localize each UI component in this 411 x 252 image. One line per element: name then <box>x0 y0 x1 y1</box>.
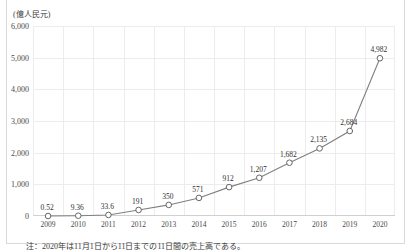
x-axis-tick-label: 2010 <box>71 220 86 229</box>
x-axis-tick-label: 2011 <box>101 220 116 229</box>
y-axis-tick-label: 4,000 <box>11 85 29 94</box>
x-axis-tick-label: 2018 <box>312 220 327 229</box>
x-axis-tick-label: 2015 <box>222 220 237 229</box>
data-point-label: 191 <box>132 197 143 206</box>
data-point-marker <box>196 195 202 201</box>
data-point-marker <box>287 160 293 166</box>
data-point-label: 571 <box>192 185 203 194</box>
chart-figure: (億人民元) 01,0002,0003,0004,0005,0006,000 2… <box>0 0 411 252</box>
data-point-marker <box>45 213 51 219</box>
data-point-label: 350 <box>162 192 173 201</box>
data-point-label: 9.36 <box>71 203 84 212</box>
chart-note: 注：2020年は11月1日から11日までの11日間の売上高である。 <box>26 240 245 251</box>
data-point-label: 2,135 <box>310 135 327 144</box>
data-point-label: 4,982 <box>370 45 387 54</box>
x-axis-tick-label: 2016 <box>252 220 267 229</box>
data-point-marker <box>377 55 383 61</box>
y-axis-tick-label: 6,000 <box>11 22 29 31</box>
data-point-marker <box>166 202 172 208</box>
x-axis-tick-label: 2014 <box>191 220 206 229</box>
data-point-marker <box>317 146 323 152</box>
x-axis-tick-label: 2009 <box>41 220 56 229</box>
data-point-label: 1,682 <box>280 150 297 159</box>
data-point-marker <box>226 184 232 190</box>
x-axis-tick-label: 2019 <box>342 220 357 229</box>
data-point-label: 0.52 <box>41 203 54 212</box>
data-point-label: 912 <box>222 174 233 183</box>
data-point-label: 1,207 <box>250 165 267 174</box>
data-point-marker <box>106 212 112 218</box>
data-point-label: 2,684 <box>340 118 357 127</box>
y-axis-unit-label: (億人民元) <box>13 8 50 19</box>
data-point-label: 33.6 <box>101 202 114 211</box>
data-point-marker <box>136 207 142 213</box>
y-axis-tick-label: 0 <box>25 212 29 221</box>
y-axis-tick-label: 3,000 <box>11 117 29 126</box>
x-axis-tick-label: 2013 <box>161 220 176 229</box>
plot-area: 01,0002,0003,0004,0005,0006,000 20092010… <box>33 26 395 216</box>
y-axis-tick-label: 5,000 <box>11 53 29 62</box>
x-axis-tick-label: 2020 <box>372 220 387 229</box>
x-axis-tick-label: 2017 <box>282 220 297 229</box>
x-axis-tick-label: 2012 <box>131 220 146 229</box>
y-axis-tick-label: 2,000 <box>11 148 29 157</box>
y-axis-tick-label: 1,000 <box>11 180 29 189</box>
data-point-marker <box>347 128 353 134</box>
series-line <box>48 58 380 216</box>
data-point-marker <box>75 213 81 219</box>
data-point-marker <box>256 175 262 181</box>
